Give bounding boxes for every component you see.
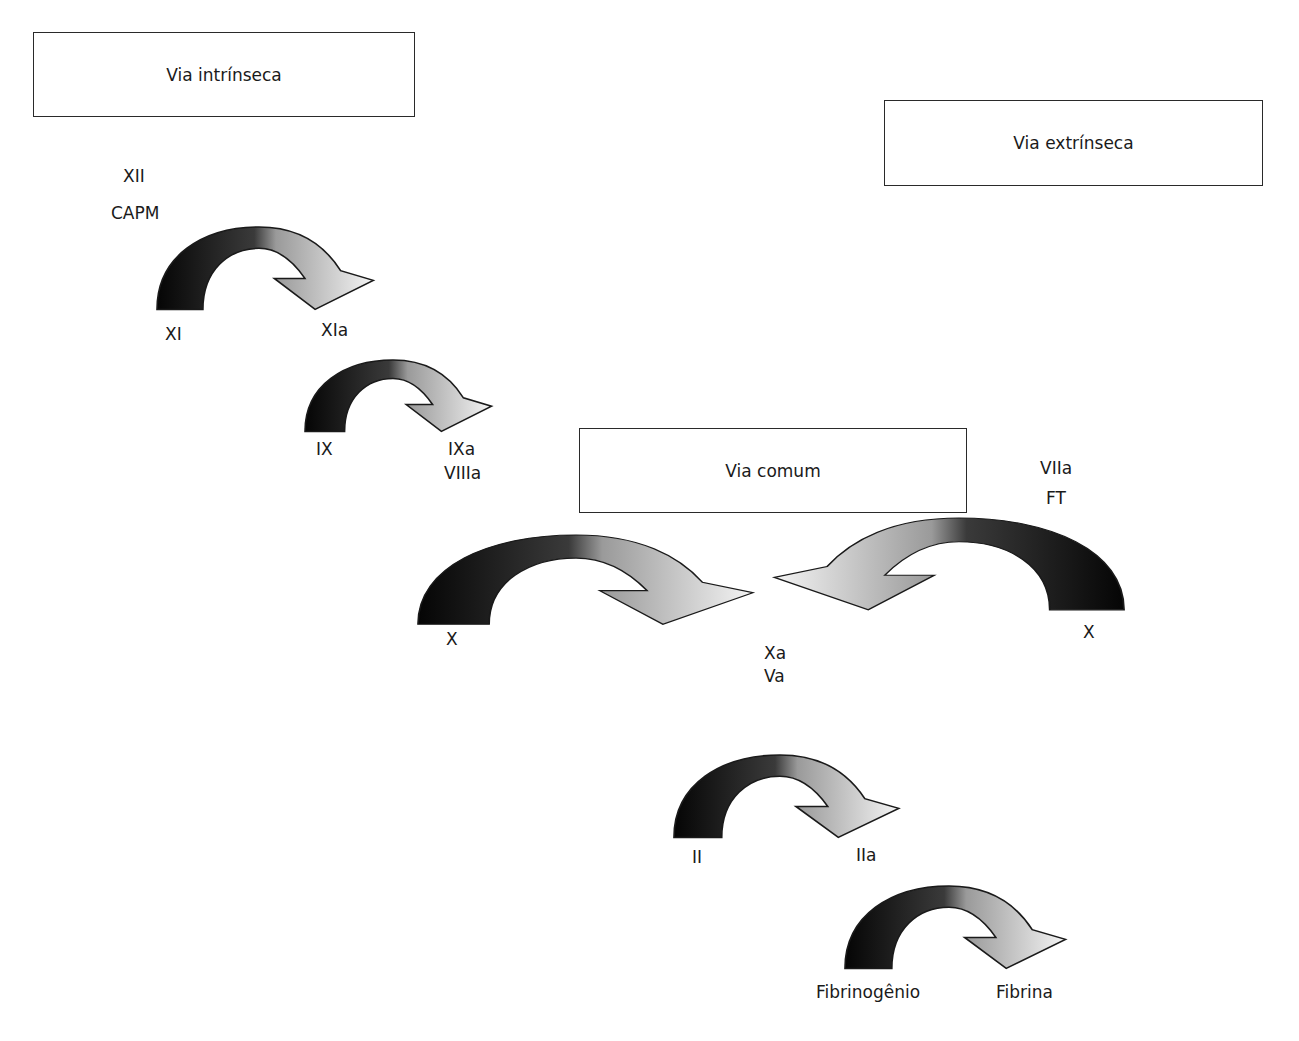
label-ix: IX — [316, 437, 333, 461]
label-va: Va — [764, 664, 785, 688]
arrow-ix-to-ixa — [305, 360, 492, 431]
label-fibrinogen: Fibrinogênio — [816, 980, 920, 1004]
label-viia: VIIa — [1040, 456, 1072, 480]
arrow-fibrinogen-to-fibrin — [845, 886, 1065, 968]
arrow-x-to-xa-extrinsic — [774, 518, 1124, 610]
label-xi: XI — [165, 322, 182, 346]
label-ii: II — [692, 845, 702, 869]
label-ixa: IXa — [448, 437, 475, 461]
label-fibrin: Fibrina — [996, 980, 1053, 1004]
label-iia: IIa — [856, 843, 876, 867]
label-viiia: VIIIa — [444, 461, 481, 485]
label-ft: FT — [1046, 486, 1066, 510]
arrow-x-to-xa-intrinsic — [418, 535, 753, 624]
arrow-xi-to-xia — [157, 227, 373, 309]
arrow-ii-to-iia — [674, 755, 899, 837]
label-xii: XII — [123, 164, 145, 188]
cascade-arrows — [0, 0, 1299, 1041]
label-capm: CAPM — [111, 201, 159, 225]
label-xia: XIa — [321, 318, 348, 342]
label-xa: Xa — [764, 641, 786, 665]
label-x-right: X — [1083, 620, 1095, 644]
label-x-left: X — [446, 627, 458, 651]
